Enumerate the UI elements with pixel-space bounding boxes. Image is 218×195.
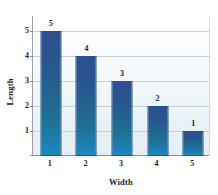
bar-slot-4: 2	[140, 16, 176, 156]
bar-slot-2: 4	[69, 16, 105, 156]
bar-slot-5: 1	[175, 16, 211, 156]
y-axis-tick-label: 4	[16, 52, 29, 60]
plot-area: 5 4 3 2 1	[32, 16, 210, 156]
bar-1[interactable]	[40, 31, 61, 156]
y-axis-tick-label-group: 1 2 3 4 5	[16, 16, 30, 156]
bar-value-label: 3	[120, 70, 124, 78]
bar-4[interactable]	[147, 106, 168, 156]
bar-2[interactable]	[76, 56, 97, 156]
bar-slot-1: 5	[33, 16, 69, 156]
y-axis-tick-label: 3	[16, 77, 29, 85]
y-axis-title-text: Length	[5, 78, 15, 105]
x-axis-tick-label: 1	[48, 160, 52, 168]
x-axis-tick-label-group: 1 2 3 4 5	[32, 160, 210, 172]
x-axis-tick-label: 4	[155, 160, 159, 168]
x-axis-title: Width	[32, 177, 210, 187]
x-axis-tick-label: 5	[190, 160, 194, 168]
bar-value-label: 1	[191, 120, 195, 128]
x-axis-tick-label: 2	[83, 160, 87, 168]
bar-slot-3: 3	[104, 16, 140, 156]
bar-value-label: 5	[49, 20, 53, 28]
y-axis-tick-label: 2	[16, 102, 29, 110]
y-axis-tick-label: 5	[16, 27, 29, 35]
bar-value-label: 4	[84, 45, 88, 53]
bar-5[interactable]	[183, 131, 204, 156]
x-axis-tick-label: 3	[119, 160, 123, 168]
bar-value-label: 2	[156, 95, 160, 103]
bar-chart-figure: Length 1 2 3 4 5 5 4 3	[0, 0, 218, 195]
bar-3[interactable]	[111, 81, 132, 156]
bars-layer: 5 4 3 2 1	[33, 16, 209, 156]
y-axis-tick-label: 1	[16, 127, 29, 135]
